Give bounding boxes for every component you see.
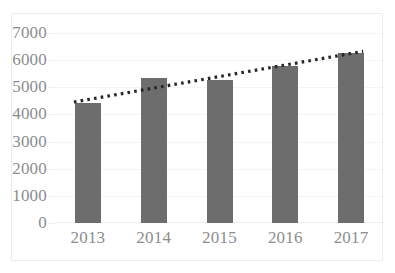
y-axis-label: 1000	[3, 187, 47, 204]
plot-area: 0100020003000400050006000700020132014201…	[55, 33, 384, 223]
bar	[338, 53, 364, 223]
y-axis-tick	[48, 223, 55, 224]
y-axis-tick	[48, 169, 55, 170]
y-axis-label: 6000	[3, 51, 47, 68]
x-axis-label: 2013	[55, 229, 121, 246]
bar	[141, 78, 167, 223]
bar	[207, 80, 233, 223]
bar	[75, 103, 101, 223]
y-axis-tick	[48, 196, 55, 197]
x-axis-label: 2016	[252, 229, 318, 246]
y-axis-label: 2000	[3, 160, 47, 177]
x-axis-label: 2014	[121, 229, 187, 246]
y-axis-label: 5000	[3, 78, 47, 95]
bar	[272, 66, 298, 223]
y-axis-label: 7000	[3, 24, 47, 41]
x-axis-label: 2017	[318, 229, 384, 246]
chart-screenshot: · · · 0100020003000400050006000700020132…	[0, 0, 395, 273]
x-axis-label: 2015	[187, 229, 253, 246]
y-axis-tick	[48, 114, 55, 115]
gridline	[55, 33, 384, 34]
gridline	[55, 60, 384, 61]
y-axis-tick	[48, 87, 55, 88]
y-axis-tick	[48, 60, 55, 61]
y-axis-label: 3000	[3, 133, 47, 150]
y-axis-label: 0	[3, 214, 47, 231]
y-axis-tick	[48, 142, 55, 143]
y-axis-label: 4000	[3, 105, 47, 122]
clipped-caption-fragment: · · ·	[0, 0, 395, 4]
y-axis-tick	[48, 33, 55, 34]
